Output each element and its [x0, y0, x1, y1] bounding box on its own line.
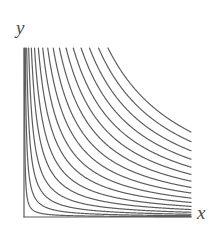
level-curve [48, 48, 191, 193]
level-curve [73, 48, 191, 167]
contour-plot-canvas [0, 0, 216, 228]
level-curve [59, 48, 191, 181]
level-curve [89, 48, 191, 151]
level-curve [53, 48, 191, 187]
y-axis-label: y [16, 18, 24, 37]
level-curve [108, 48, 191, 132]
x-axis-label: x [197, 203, 205, 222]
level-curve [29, 48, 191, 212]
contour-plot-figure: y x [0, 0, 216, 228]
level-curve [98, 48, 191, 142]
level-curve-layer [24, 48, 191, 217]
